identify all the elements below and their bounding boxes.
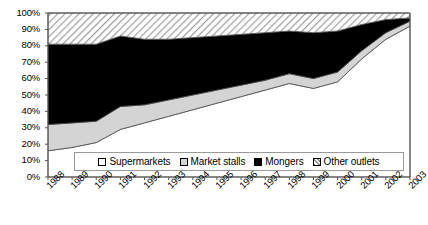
legend-swatch-other-outlets [313,158,321,166]
legend-swatch-market-stalls [180,158,188,166]
y-axis-tick-label: 60% [4,72,40,83]
legend-item-mongers[interactable]: Mongers [254,156,303,167]
legend-label-supermarkets: Supermarkets [109,156,170,167]
legend-swatch-mongers [254,158,262,166]
y-axis-tick-label: 90% [4,23,40,34]
legend-item-market-stalls[interactable]: Market stalls [180,156,246,167]
legend-item-other-outlets[interactable]: Other outlets [313,156,380,167]
y-axis-tick-label: 100% [4,7,40,18]
legend-swatch-supermarkets [98,158,106,166]
y-axis-tick-label: 70% [4,56,40,67]
y-axis-tick-label: 30% [4,121,40,132]
legend-label-mongers: Mongers [265,156,303,167]
y-axis-tick-label: 10% [4,154,40,165]
y-axis-tick-label: 80% [4,39,40,50]
y-axis-tick-label: 0% [4,171,40,182]
y-axis-tick-label: 40% [4,105,40,116]
y-axis-tick-label: 20% [4,138,40,149]
legend-label-other-outlets: Other outlets [324,156,380,167]
chart-legend: Supermarkets Market stalls Mongers Other… [74,152,404,171]
legend-label-market-stalls: Market stalls [191,156,246,167]
y-axis-tick-label: 50% [4,89,40,100]
legend-item-supermarkets[interactable]: Supermarkets [98,156,170,167]
